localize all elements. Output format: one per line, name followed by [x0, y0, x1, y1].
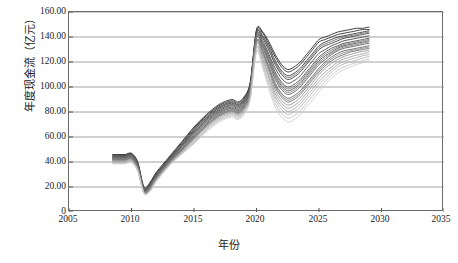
- y-tick-label-1: 20.00: [6, 181, 66, 191]
- y-tick-label-2: 40.00: [6, 156, 66, 166]
- y-tick-label-5: 100.00: [6, 81, 66, 91]
- x-tick-label-2025: 2025: [288, 214, 348, 225]
- x-tick-marks: [69, 208, 444, 212]
- x-tick-label-2005: 2005: [38, 214, 98, 225]
- x-tick-label-2035: 2035: [411, 214, 458, 225]
- x-tick-label-2010: 2010: [100, 214, 160, 225]
- y-tick-label-3: 60.00: [6, 131, 66, 141]
- plot-area: [68, 11, 443, 211]
- y-axis-title: 年度现金流（亿元）: [21, 0, 37, 137]
- plot-canvas: [69, 12, 444, 212]
- x-tick-label-2030: 2030: [350, 214, 410, 225]
- x-tick-label-2020: 2020: [225, 214, 285, 225]
- y-tick-label-4: 80.00: [6, 106, 66, 116]
- y-tick-label-6: 120.00: [6, 56, 66, 66]
- data-series-line: [113, 47, 369, 194]
- y-tick-label-8: 160.00: [6, 6, 66, 16]
- y-tick-marks: [69, 12, 73, 212]
- data-series-line: [113, 50, 369, 195]
- x-axis-title: 年份: [0, 236, 458, 252]
- chart-figure: 年度现金流（亿元） 0 20.00 40.00 60.00 80.00 100.…: [0, 0, 458, 263]
- x-tick-label-2015: 2015: [163, 214, 223, 225]
- y-tick-label-7: 140.00: [6, 31, 66, 41]
- data-series-group: [113, 26, 369, 194]
